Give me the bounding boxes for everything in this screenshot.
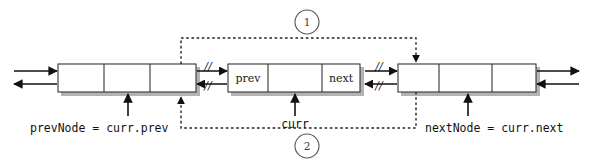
next-node-box bbox=[398, 64, 536, 92]
curr-node-prev-cell-label: prev bbox=[235, 72, 261, 85]
severed-links-right-gap: // // bbox=[365, 60, 397, 92]
prev-node-shadow bbox=[61, 92, 199, 96]
next-node-pointer-label: nextNode = curr.next bbox=[425, 121, 563, 135]
severed-link-top-right-icon: // bbox=[374, 60, 384, 73]
next-node bbox=[398, 64, 536, 92]
diagram-canvas: prev next // // bbox=[0, 0, 592, 163]
severed-links-left-gap: // // bbox=[197, 60, 227, 92]
severed-link-bottom-right-icon: // bbox=[374, 79, 384, 92]
curr-node-next-cell-label: next bbox=[329, 72, 354, 85]
severed-link-top-left-icon: // bbox=[203, 60, 213, 73]
prev-node-box bbox=[58, 64, 196, 92]
prev-node bbox=[58, 64, 196, 92]
left-external-links bbox=[14, 71, 57, 84]
step-1-badge: 1 bbox=[295, 10, 319, 34]
severed-link-bottom-left-icon: // bbox=[203, 79, 213, 92]
next-node-shadow bbox=[401, 92, 539, 96]
right-external-links bbox=[537, 71, 579, 84]
step-2-badge: 2 bbox=[295, 134, 319, 158]
step-1-number: 1 bbox=[304, 16, 311, 28]
curr-node-shadow-right bbox=[360, 67, 364, 96]
linked-list-removal-diagram: prev next // // bbox=[0, 0, 592, 163]
prev-node-pointer-label: prevNode = curr.prev bbox=[30, 121, 169, 135]
pointer-arrows bbox=[128, 94, 468, 116]
curr-pointer-label: curr bbox=[281, 117, 309, 131]
curr-node-shadow bbox=[231, 92, 363, 96]
step-2-number: 2 bbox=[304, 140, 311, 152]
curr-node: prev next bbox=[228, 64, 360, 92]
